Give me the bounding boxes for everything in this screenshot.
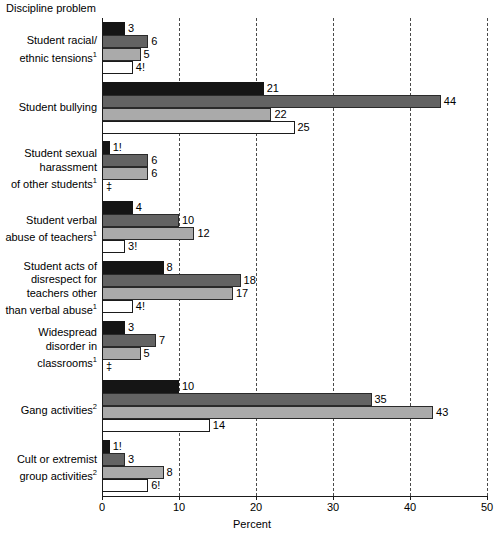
bar-c3-s3 — [102, 240, 125, 253]
bar-c2-s0 — [102, 141, 110, 154]
bar-c4-s2 — [102, 287, 233, 300]
gridline-40 — [410, 18, 411, 496]
bar-c4-s1 — [102, 274, 241, 287]
x-axis-line — [102, 496, 488, 497]
category-label-3: Student verbalabuse of teachers1 — [0, 214, 97, 245]
category-label-line: abuse of teachers1 — [0, 227, 97, 244]
x-tick-20 — [256, 496, 257, 500]
x-tick-label-50: 50 — [481, 501, 493, 514]
x-tick-label-40: 40 — [404, 501, 416, 514]
bar-c3-s1 — [102, 214, 179, 227]
bar-value-c7-s1: 3 — [128, 453, 134, 466]
gridline-50 — [487, 18, 488, 496]
x-tick-label-0: 0 — [99, 501, 105, 514]
footnote-marker: 1 — [93, 355, 97, 364]
bar-c2-s1 — [102, 154, 148, 167]
bar-c3-s0 — [102, 201, 133, 214]
x-tick-label-30: 30 — [327, 501, 339, 514]
category-label-line: disrespect for — [0, 273, 97, 287]
bar-value-c6-s3: 14 — [213, 419, 225, 432]
bar-value-c6-s2: 43 — [436, 406, 448, 419]
bar-value-c5-s1: 7 — [159, 334, 165, 347]
bar-chart: Discipline problem 3654!214422251!66‡410… — [0, 0, 504, 540]
category-label-line: of other students1 — [0, 174, 97, 191]
bar-c3-s2 — [102, 227, 194, 240]
category-label-line: Student sexual — [0, 147, 97, 161]
bar-c6-s0 — [102, 380, 179, 393]
category-label-4: Student acts ofdisrespect forteachers ot… — [0, 260, 97, 318]
bar-value-c4-s1: 18 — [244, 274, 256, 287]
x-axis-title: Percent — [0, 518, 504, 531]
footnote-marker: 1 — [93, 176, 97, 185]
bar-c0-s0 — [102, 22, 125, 35]
bar-c1-s2 — [102, 108, 271, 121]
category-label-line: harassment — [0, 161, 97, 175]
x-tick-40 — [410, 496, 411, 500]
category-label-line: Student verbal — [0, 214, 97, 228]
bar-value-c2-s2: 6 — [151, 167, 157, 180]
category-label-line: disorder in — [0, 340, 97, 354]
category-label-line: group activities2 — [0, 466, 97, 483]
bar-value-c1-s1: 44 — [444, 95, 456, 108]
bar-c0-s2 — [102, 48, 141, 61]
bar-c7-s0 — [102, 440, 110, 453]
bar-value-c4-s3: 4! — [136, 300, 145, 313]
bar-c7-s1 — [102, 453, 125, 466]
x-tick-label-20: 20 — [250, 501, 262, 514]
bar-c7-s2 — [102, 466, 164, 479]
bar-c5-s1 — [102, 334, 156, 347]
bar-value-c7-s3: 6! — [151, 479, 160, 492]
bar-value-c6-s0: 10 — [182, 380, 194, 393]
bar-value-c7-s2: 8 — [167, 466, 173, 479]
bar-value-c5-s2: 5 — [144, 347, 150, 360]
category-label-7: Cult or extremistgroup activities2 — [0, 453, 97, 484]
bar-value-c2-s3: ‡ — [106, 180, 112, 193]
footnote-marker: 2 — [93, 402, 97, 411]
footnote-marker: 1 — [93, 302, 97, 311]
category-label-line: Widespread — [0, 326, 97, 340]
category-label-6: Gang activities2 — [0, 400, 97, 417]
category-label-1: Student bullying — [0, 101, 97, 115]
footnote-marker: 2 — [93, 468, 97, 477]
bar-value-c0-s2: 5 — [144, 48, 150, 61]
category-label-line: than verbal abuse1 — [0, 300, 97, 317]
bar-value-c3-s0: 4 — [136, 201, 142, 214]
bar-value-c1-s0: 21 — [267, 82, 279, 95]
x-tick-10 — [179, 496, 180, 500]
bar-value-c4-s2: 17 — [236, 287, 248, 300]
bar-value-c2-s1: 6 — [151, 154, 157, 167]
bar-value-c5-s3: ‡ — [106, 360, 112, 373]
bar-value-c0-s3: 4! — [136, 61, 145, 74]
gridline-30 — [333, 18, 334, 496]
bar-value-c3-s3: 3! — [128, 240, 137, 253]
category-label-line: Student acts of — [0, 260, 97, 274]
x-tick-50 — [487, 496, 488, 500]
category-label-line: classrooms1 — [0, 353, 97, 370]
bar-c1-s1 — [102, 95, 441, 108]
bar-c5-s2 — [102, 347, 141, 360]
category-label-line: Student racial/ — [0, 34, 97, 48]
bar-c4-s0 — [102, 261, 164, 274]
bar-value-c6-s1: 35 — [375, 393, 387, 406]
bar-value-c7-s0: 1! — [113, 440, 122, 453]
x-tick-label-10: 10 — [173, 501, 185, 514]
bar-value-c3-s2: 12 — [197, 227, 209, 240]
plot-area: 3654!214422251!66‡410123!818174!375‡1035… — [102, 18, 487, 496]
x-tick-30 — [333, 496, 334, 500]
footnote-marker: 1 — [93, 229, 97, 238]
y-axis-line — [102, 18, 103, 496]
bar-c1-s0 — [102, 82, 264, 95]
bar-value-c1-s2: 22 — [274, 108, 286, 121]
category-label-0: Student racial/ethnic tensions1 — [0, 34, 97, 65]
bar-c0-s1 — [102, 35, 148, 48]
bar-value-c5-s0: 3 — [128, 321, 134, 334]
category-label-line: Gang activities2 — [0, 400, 97, 417]
bar-c2-s2 — [102, 167, 148, 180]
bar-value-c2-s0: 1! — [113, 141, 122, 154]
bar-c6-s2 — [102, 406, 433, 419]
bar-c1-s3 — [102, 121, 295, 134]
category-label-5: Widespreaddisorder inclassrooms1 — [0, 326, 97, 370]
bar-c7-s3 — [102, 479, 148, 492]
bar-c0-s3 — [102, 61, 133, 74]
bar-c6-s3 — [102, 419, 210, 432]
